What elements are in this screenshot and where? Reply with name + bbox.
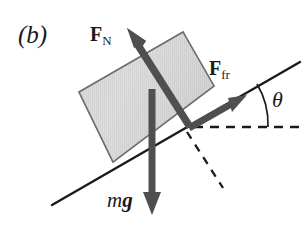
angle-label: θ bbox=[272, 89, 283, 111]
friction-force-symbol: F bbox=[209, 57, 221, 79]
panel-label: (b) bbox=[18, 22, 47, 47]
angle-arc bbox=[257, 84, 268, 127]
friction-force-arrow bbox=[189, 95, 247, 128]
normal-force-symbol: F bbox=[90, 23, 102, 45]
normal-force-subscript: N bbox=[102, 33, 111, 48]
mass-symbol: m bbox=[107, 188, 122, 212]
weight-label: mg bbox=[107, 190, 133, 211]
physics-free-body-diagram: (b) FN Ffr mg θ bbox=[0, 0, 303, 229]
gravity-symbol: g bbox=[122, 188, 133, 212]
normal-force-label: FN bbox=[90, 24, 112, 47]
friction-force-subscript: fr bbox=[221, 67, 230, 82]
block bbox=[79, 32, 214, 162]
normal-extension-dashed-line bbox=[187, 132, 223, 188]
friction-force-label: Ffr bbox=[209, 58, 230, 81]
